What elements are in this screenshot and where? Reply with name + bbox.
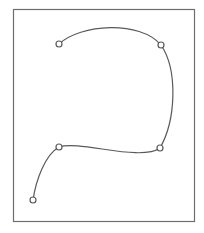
control-point-p3[interactable] [157,145,163,151]
spline-curve[interactable] [33,28,173,200]
spline-diagram [0,0,204,233]
control-point-p5[interactable] [30,197,36,203]
diagram-frame [14,10,195,222]
control-point-p1[interactable] [56,41,62,47]
control-point-p4[interactable] [56,144,62,150]
control-point-p2[interactable] [158,42,164,48]
diagram-canvas [0,0,204,233]
control-points-group [30,41,164,203]
